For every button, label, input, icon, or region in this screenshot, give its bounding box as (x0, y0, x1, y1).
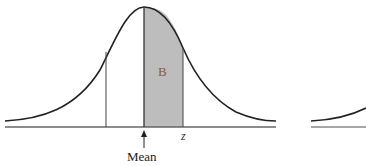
shaded-area-label: B (158, 64, 167, 80)
mean-label: Mean (127, 149, 157, 165)
z-label: z (181, 129, 186, 144)
normal-curve (5, 7, 276, 121)
normal-curve-right-fragment (311, 108, 366, 121)
mean-arrow-icon (141, 130, 147, 137)
